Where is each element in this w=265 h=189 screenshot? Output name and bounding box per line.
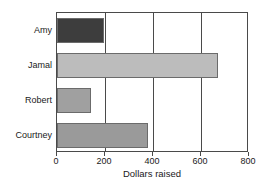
x-tick-label-800: 800 — [233, 156, 263, 167]
x-tick-label-0: 0 — [41, 156, 71, 167]
x-tick-label-200: 200 — [89, 156, 119, 167]
category-label-jamal: Jamal — [0, 60, 52, 70]
bar-courtney — [57, 123, 249, 148]
category-label-robert: Robert — [0, 95, 52, 105]
bar-jamal — [57, 53, 249, 78]
x-tick-label-600: 600 — [185, 156, 215, 167]
bar-robert — [57, 88, 249, 113]
bar-chart: AmyJamalRobertCourtney 0200400600800 Dol… — [0, 0, 265, 189]
bar-amy — [57, 18, 249, 43]
category-axis-labels: AmyJamalRobertCourtney — [0, 12, 52, 152]
bar-rect-robert — [57, 88, 91, 113]
bar-rect-amy — [57, 18, 104, 43]
plot-area — [56, 12, 248, 152]
category-label-amy: Amy — [0, 25, 52, 35]
bar-rect-courtney — [57, 123, 148, 148]
x-tick-label-400: 400 — [137, 156, 167, 167]
category-label-courtney: Courtney — [0, 130, 52, 140]
x-axis: 0200400600800 — [56, 152, 248, 168]
bar-rect-jamal — [57, 53, 218, 78]
x-axis-title: Dollars raised — [56, 168, 248, 180]
